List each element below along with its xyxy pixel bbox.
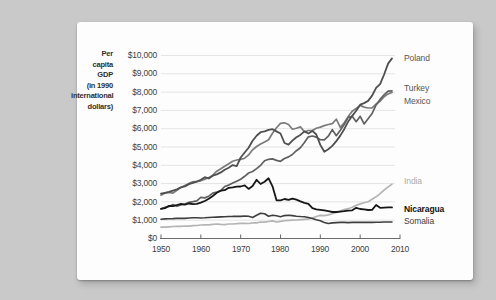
y-tick-label: $4,000 bbox=[97, 160, 157, 170]
y-tick-label: $3,000 bbox=[97, 178, 157, 188]
y-tick-label: $7,000 bbox=[97, 105, 157, 115]
series-label-poland: Poland bbox=[404, 53, 430, 63]
series-label-india: India bbox=[404, 176, 422, 186]
x-tick-label: 2010 bbox=[385, 244, 415, 254]
y-tick-label: $8,000 bbox=[97, 87, 157, 97]
x-tick-label: 1980 bbox=[265, 244, 295, 254]
y-tick-label: $2,000 bbox=[97, 197, 157, 207]
y-tick-label: $5,000 bbox=[97, 142, 157, 152]
series-label-mexico: Mexico bbox=[404, 96, 430, 106]
x-tick-label: 1950 bbox=[146, 244, 176, 254]
x-tick-label: 1990 bbox=[305, 244, 335, 254]
y-tick-label: $9,000 bbox=[97, 68, 157, 78]
series-label-turkey: Turkey bbox=[404, 83, 429, 93]
y-tick-label: $6,000 bbox=[97, 123, 157, 133]
y-tick-label: $0 bbox=[97, 233, 157, 243]
series-label-somalia: Somalia bbox=[404, 216, 434, 226]
x-tick-label: 1970 bbox=[226, 244, 256, 254]
series-label-nicaragua: Nicaragua bbox=[404, 204, 444, 214]
x-tick-label: 1960 bbox=[186, 244, 216, 254]
chart-card: Per capita GDP (in 1990 international do… bbox=[77, 22, 473, 280]
x-tick-label: 2000 bbox=[345, 244, 375, 254]
y-tick-label: $10,000 bbox=[97, 50, 157, 60]
y-tick-label: $1,000 bbox=[97, 215, 157, 225]
